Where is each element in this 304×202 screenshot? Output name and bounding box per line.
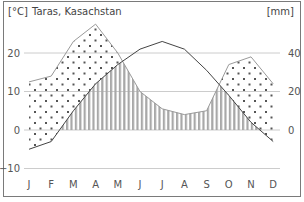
month-label: A [181, 179, 188, 190]
month-label: F [48, 179, 54, 190]
month-label: A [92, 179, 99, 190]
month-label: D [269, 179, 277, 190]
month-label: N [247, 179, 254, 190]
month-label: O [225, 179, 233, 190]
area-fills [29, 24, 273, 202]
right-tick-label: 40 [288, 48, 301, 59]
chart-title: Taras, Kasachstan [31, 6, 122, 17]
left-unit-label: [°C] [8, 6, 28, 17]
right-tick-label: 0 [288, 125, 294, 136]
month-label: M [113, 179, 122, 190]
month-label: J [160, 179, 164, 190]
left-tick-label: 0 [14, 125, 20, 136]
month-label: S [203, 179, 209, 190]
left-tick-label: −10 [0, 163, 20, 174]
left-tick-label: 20 [7, 48, 20, 59]
left-tick-label: 10 [7, 86, 20, 97]
right-tick-label: 20 [288, 86, 301, 97]
month-label: J [138, 179, 142, 190]
right-unit-label: [mm] [267, 6, 294, 17]
climate-chart: [°C] Taras, Kasachstan [mm] 20100−104020… [0, 0, 304, 202]
month-label: M [69, 179, 78, 190]
month-label: J [27, 179, 31, 190]
